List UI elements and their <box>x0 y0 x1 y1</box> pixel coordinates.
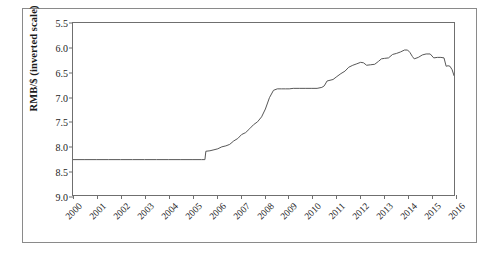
x-axis-tick-mark <box>97 195 98 199</box>
x-axis-tick-mark <box>121 195 122 199</box>
y-axis-tick-mark <box>69 23 73 24</box>
y-axis-tick-mark <box>69 147 73 148</box>
x-axis-tick-mark <box>288 195 289 199</box>
y-axis-tick-mark <box>69 47 73 48</box>
x-axis-tick-mark <box>193 195 194 199</box>
plot-area: 5.56.06.57.07.58.08.59.02000200120022003… <box>72 22 455 196</box>
y-axis-tick-label: 8.0 <box>56 142 69 153</box>
x-axis-tick-mark <box>456 195 457 199</box>
y-axis-title: RMB/$ (inverted scale) <box>28 0 39 139</box>
y-axis-tick-label: 6.5 <box>56 67 69 78</box>
x-axis-tick-mark <box>360 195 361 199</box>
y-axis-tick-mark <box>69 97 73 98</box>
x-axis-tick-mark <box>73 195 74 199</box>
line-series-rmb-per-usd <box>73 23 454 195</box>
x-axis-tick-mark <box>241 195 242 199</box>
x-axis-tick-mark <box>169 195 170 199</box>
x-axis-tick-mark <box>432 195 433 199</box>
y-axis-tick-label: 8.5 <box>56 167 69 178</box>
x-axis-tick-mark <box>408 195 409 199</box>
data-polyline <box>73 50 454 160</box>
x-axis-tick-mark <box>312 195 313 199</box>
x-axis-tick-mark <box>265 195 266 199</box>
y-axis-tick-mark <box>69 72 73 73</box>
y-axis-tick-label: 7.0 <box>56 92 69 103</box>
y-axis-tick-label: 9.0 <box>56 192 69 203</box>
x-axis-tick-mark <box>145 195 146 199</box>
y-axis-tick-label: 5.5 <box>56 18 69 29</box>
y-axis-tick-mark <box>69 122 73 123</box>
y-axis-tick-mark <box>69 172 73 173</box>
y-axis-tick-label: 7.5 <box>56 117 69 128</box>
x-axis-tick-mark <box>384 195 385 199</box>
x-axis-tick-mark <box>217 195 218 199</box>
figure: RMB/$ (inverted scale) 5.56.06.57.07.58.… <box>0 0 488 257</box>
y-axis-tick-label: 6.0 <box>56 42 69 53</box>
x-axis-tick-mark <box>336 195 337 199</box>
